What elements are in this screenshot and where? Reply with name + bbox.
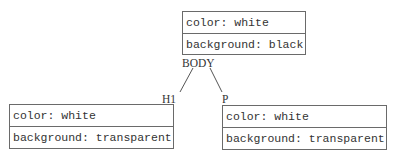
property-row: background: transparent [223,127,386,149]
node-p-label: P [222,93,228,105]
property-row: background: transparent [10,126,173,148]
property-row: color: white [223,106,386,127]
node-h1-box: color: white background: transparent [9,104,174,149]
edge-body-to-h1 [180,68,193,92]
edge-body-to-p [210,68,222,92]
property-row: background: black [183,33,305,55]
inheritance-diagram: color: white background: black BODY H1 c… [0,0,397,158]
node-body-label: BODY [182,57,215,69]
property-row: color: white [10,105,173,126]
property-row: color: white [183,12,305,33]
node-body-box: color: white background: black [182,11,306,55]
node-p-box: color: white background: transparent [222,105,387,150]
